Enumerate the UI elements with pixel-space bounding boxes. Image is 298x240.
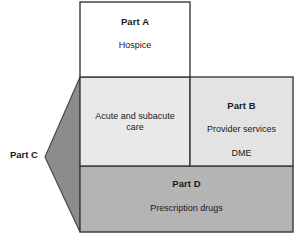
part-a-title: Part A <box>121 16 149 27</box>
part-c-label: Part C <box>4 149 44 160</box>
part-d-description: Prescription drugs <box>150 203 223 214</box>
part-d-block: Part D Prescription drugs <box>80 166 293 232</box>
part-a-description: Hospice <box>119 40 152 51</box>
medicare-parts-diagram: Part A Hospice Acute and subacute care P… <box>0 0 298 240</box>
part-a-block: Part A Hospice <box>80 2 190 77</box>
acute-subacute-description: Acute and subacute care <box>86 111 184 133</box>
part-b-description-line-2: DME <box>232 148 252 159</box>
acute-subacute-block: Acute and subacute care <box>80 77 190 166</box>
part-d-title: Part D <box>172 178 201 189</box>
part-b-title: Part B <box>227 100 256 111</box>
part-c-arrow-shape <box>45 77 80 232</box>
part-b-block: Part B Provider services DME <box>190 77 293 166</box>
part-b-description-line-1: Provider services <box>207 124 276 135</box>
